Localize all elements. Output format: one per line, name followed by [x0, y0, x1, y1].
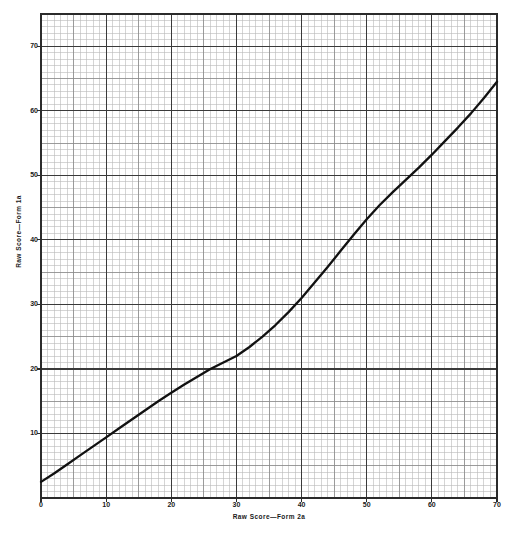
footer-artifact-text: [335, 520, 513, 534]
chart-container: Raw Score—Form 1a 10203040506070 0102030…: [0, 0, 516, 538]
grid-medium-lines: [41, 14, 497, 498]
plot-area: [0, 0, 516, 538]
